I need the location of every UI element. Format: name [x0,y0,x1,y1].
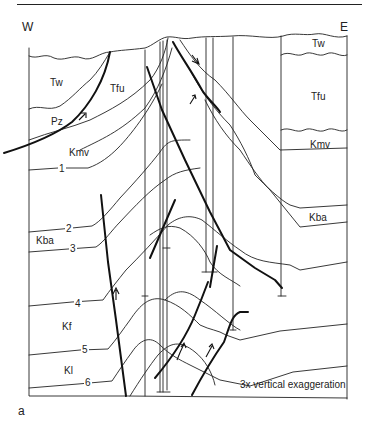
horizon-number-6: 6 [84,378,92,388]
unit-label-tw-east: Tw [312,39,325,49]
unit-label-kl: Kl [64,366,73,376]
horizon-number-5: 5 [81,345,89,355]
fault-mid-small [150,200,175,258]
panel-label: a [18,405,25,417]
unit-label-kmv-east: Kmv [310,140,330,150]
unit-label-tw-west: Tw [50,78,63,88]
unit-label-kba-west: Kba [36,236,54,246]
horizon-number-4: 4 [74,299,82,309]
fault-kba [101,195,126,396]
unit-label-kba-east: Kba [309,213,327,223]
west-direction-label: W [22,21,33,33]
fault-right-small [210,246,217,287]
horizon-number-3: 3 [69,244,77,254]
cross-section-drawing [0,0,368,422]
unit-label-tfu-west: Tfu [110,84,124,94]
frame-bottom [126,396,347,398]
horizon-number-1: 1 [58,164,66,174]
fault-west-pz [4,52,110,153]
east-direction-label: E [340,21,348,33]
unit-label-kf: Kf [62,322,71,332]
unit-label-pz: Pz [51,117,63,127]
horizon-number-2: 2 [65,224,73,234]
unit-label-kmv-west: Kmv [69,148,89,158]
vertical-exaggeration-note: 3x vertical exaggeration [240,380,346,390]
frame-left-bottom [29,48,126,396]
unit-label-tfu-east: Tfu [311,92,325,102]
